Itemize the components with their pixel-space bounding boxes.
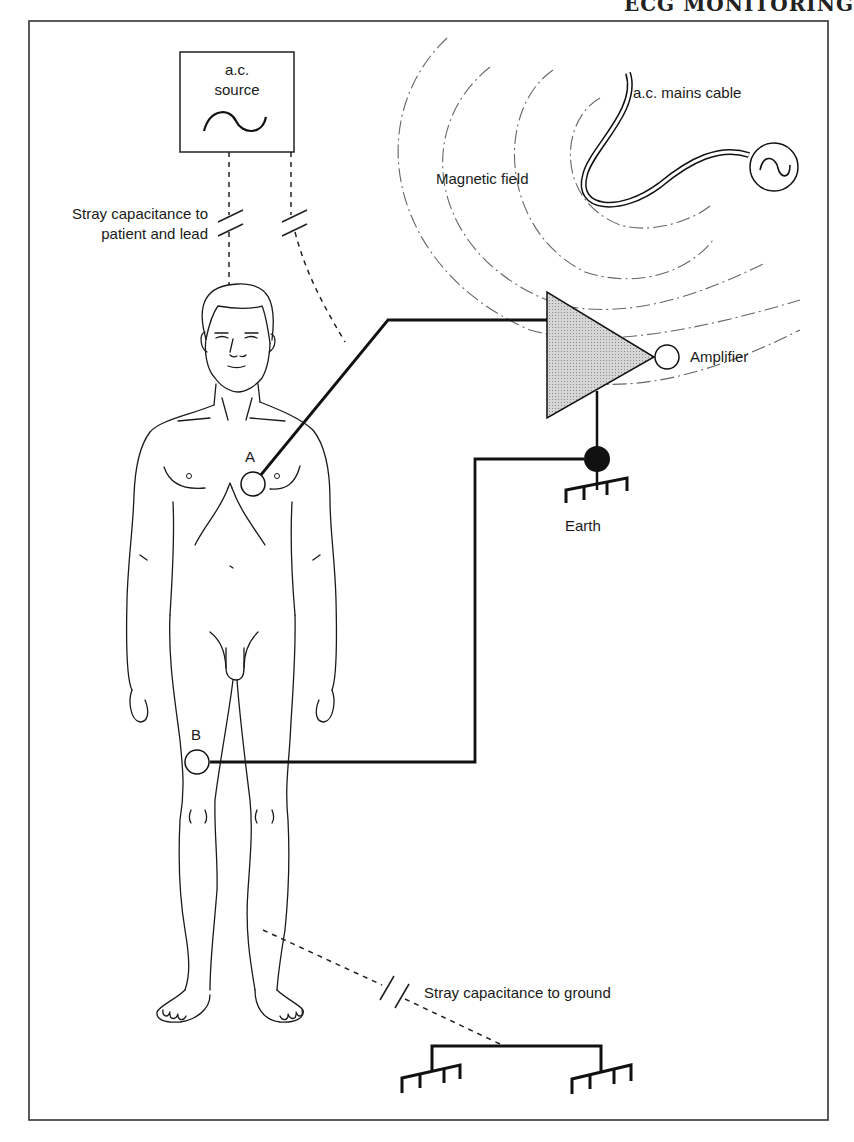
earth: Earth (565, 391, 627, 534)
ac-source: a.c. source (180, 52, 294, 152)
stray-capacitance-ground: Stray capacitance to ground (263, 930, 611, 1044)
electrode-a: A (241, 448, 265, 496)
ground-plane (402, 1046, 631, 1094)
ac-source-label-line2: source (214, 81, 259, 98)
amplifier-label: Amplifier (690, 348, 748, 365)
stray-capacitance-patient: Stray capacitance to patient and lead (72, 152, 345, 342)
stray-cap-ground-label: Stray capacitance to ground (424, 984, 611, 1001)
patient-figure (127, 284, 337, 1022)
stray-cap-patient-label-line1: Stray capacitance to (72, 205, 208, 222)
electrode-a-label: A (245, 448, 255, 465)
earth-junction-icon (584, 446, 610, 472)
lead-a (260, 320, 547, 476)
figure-frame (29, 21, 828, 1120)
mains-cable-label: a.c. mains cable (633, 84, 741, 101)
ecg-interference-diagram: a.c. source Stray capacitance to patient… (0, 0, 854, 1142)
amplifier-output-icon (655, 345, 679, 369)
ac-mains-symbol-icon (750, 143, 798, 191)
electrode-b-label: B (191, 726, 201, 743)
lead-b (210, 459, 584, 762)
magnetic-field-label: Magnetic field (436, 170, 529, 187)
amplifier: Amplifier (547, 292, 748, 418)
stray-cap-patient-label-line2: patient and lead (101, 225, 208, 242)
mains-cable: a.c. mains cable (584, 73, 798, 205)
electrode-b: B (185, 726, 209, 774)
leads (210, 320, 584, 762)
ac-source-label-line1: a.c. (225, 61, 249, 78)
earth-label: Earth (565, 517, 601, 534)
